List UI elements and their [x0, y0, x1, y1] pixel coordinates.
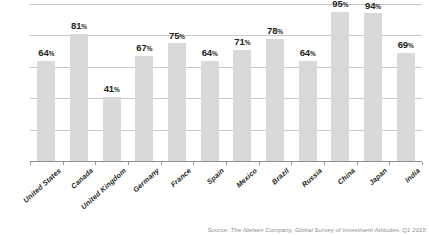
percent-sign: %: [114, 86, 120, 93]
category-label-mexico: Mexico: [234, 166, 259, 190]
bar-rect: [331, 12, 349, 161]
source-note: Source: The Nielsen Company, Global Surv…: [176, 227, 426, 235]
category-label-russia: Russia: [300, 166, 324, 189]
x-axis-tick: [193, 162, 194, 165]
category-labels: United StatesCanadaUnited KingdomGermany…: [30, 166, 422, 224]
bar-rect: [168, 43, 186, 161]
percent-sign: %: [310, 50, 316, 57]
bar-value-number: 81: [71, 20, 81, 31]
x-axis-tick: [389, 162, 390, 165]
bar-value-label: 69%: [398, 40, 414, 51]
bar-value-number: 67: [136, 42, 146, 53]
x-axis-tick: [324, 162, 325, 165]
bar-rect: [70, 34, 88, 161]
bar-france: 75%: [168, 0, 186, 161]
x-axis-tick: [30, 162, 31, 165]
bar-mexico: 71%: [233, 0, 251, 161]
bar-rect: [397, 53, 415, 161]
bar-value-label: 64%: [300, 48, 316, 59]
bar-china: 95%: [331, 0, 349, 161]
category-label-france: France: [169, 166, 193, 189]
bar-rect: [135, 56, 153, 161]
bar-value-label: 78%: [267, 26, 283, 37]
bar-rect: [201, 61, 219, 161]
bar-brazil: 78%: [266, 0, 284, 161]
percent-sign: %: [245, 39, 251, 46]
x-axis-tick: [161, 162, 162, 165]
percent-sign: %: [408, 42, 414, 49]
category-label-brazil: Brazil: [270, 166, 291, 186]
bar-rect: [233, 50, 251, 161]
bars-layer: 64%81%41%67%75%64%71%78%64%95%94%69%: [30, 0, 422, 161]
category-label-india: India: [403, 166, 422, 184]
bar-rect: [37, 61, 55, 161]
x-axis-tick: [291, 162, 292, 165]
category-label-spain: Spain: [205, 166, 226, 186]
bar-value-label: 75%: [169, 31, 185, 42]
bar-value-number: 71: [234, 36, 244, 47]
bar-value-number: 64: [300, 47, 310, 58]
percent-sign: %: [343, 1, 349, 8]
category-label-canada: Canada: [69, 166, 95, 191]
bar-value-label: 81%: [71, 21, 87, 32]
category-label-japan: Japan: [367, 166, 389, 187]
bar-russia: 64%: [299, 0, 317, 161]
bar-value-number: 64: [38, 47, 48, 58]
bar-chart: 64%81%41%67%75%64%71%78%64%95%94%69% Uni…: [0, 0, 429, 235]
bar-value-label: 41%: [104, 84, 120, 95]
percent-sign: %: [81, 23, 87, 30]
x-axis-tick: [128, 162, 129, 165]
bar-rect: [364, 13, 382, 161]
percent-sign: %: [277, 28, 283, 35]
bar-spain: 64%: [201, 0, 219, 161]
bar-united-kingdom: 41%: [103, 0, 121, 161]
category-label-united-states: United States: [21, 166, 63, 205]
x-axis-tick: [226, 162, 227, 165]
bar-rect: [266, 39, 284, 161]
bar-value-number: 94: [365, 0, 375, 11]
bar-value-label: 64%: [38, 48, 54, 59]
bar-rect: [299, 61, 317, 161]
x-axis-tick: [63, 162, 64, 165]
bar-value-label: 64%: [202, 48, 218, 59]
bar-united-states: 64%: [37, 0, 55, 161]
bar-value-label: 67%: [136, 43, 152, 54]
bar-value-number: 78: [267, 25, 277, 36]
bar-india: 69%: [397, 0, 415, 161]
bar-value-number: 75: [169, 30, 179, 41]
bar-japan: 94%: [364, 0, 382, 161]
bar-canada: 81%: [70, 0, 88, 161]
percent-sign: %: [179, 33, 185, 40]
bar-value-number: 64: [202, 47, 212, 58]
percent-sign: %: [49, 50, 55, 57]
bar-value-number: 95: [332, 0, 342, 9]
bar-germany: 67%: [135, 0, 153, 161]
x-axis-tick: [422, 162, 423, 165]
bar-rect: [103, 97, 121, 161]
percent-sign: %: [147, 45, 153, 52]
bar-value-label: 95%: [332, 0, 348, 10]
bar-value-label: 94%: [365, 1, 381, 12]
x-axis-tick: [357, 162, 358, 165]
bar-value-number: 69: [398, 39, 408, 50]
x-axis-tick: [259, 162, 260, 165]
percent-sign: %: [375, 3, 381, 10]
category-label-germany: Germany: [131, 166, 161, 194]
x-axis-tick: [95, 162, 96, 165]
category-label-china: China: [335, 166, 356, 187]
percent-sign: %: [212, 50, 218, 57]
bar-value-number: 41: [104, 83, 114, 94]
bar-value-label: 71%: [234, 37, 250, 48]
